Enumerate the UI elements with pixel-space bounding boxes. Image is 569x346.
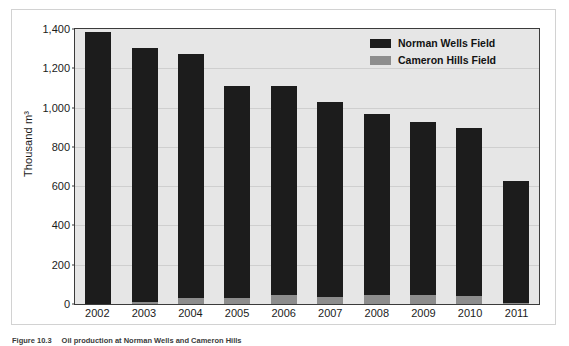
legend-item-0: Norman Wells Field xyxy=(370,37,496,49)
bar-segment-cameron-hills xyxy=(224,298,250,304)
bar-group-2007 xyxy=(317,29,343,304)
bar-segment-norman-wells xyxy=(224,86,250,298)
y-tick-label: 1,400 xyxy=(42,23,70,35)
bar-segment-cameron-hills xyxy=(503,303,529,304)
x-tick-label-2003: 2003 xyxy=(131,307,157,319)
bar-group-2003 xyxy=(132,29,158,304)
bar-segment-norman-wells xyxy=(317,102,343,297)
bar-segment-norman-wells xyxy=(271,86,297,295)
legend-label: Cameron Hills Field xyxy=(398,54,496,66)
y-tick-label: 1,200 xyxy=(42,62,70,74)
bar-segment-cameron-hills xyxy=(364,295,390,304)
y-tick-label: 400 xyxy=(52,219,70,231)
x-tick-label-2006: 2006 xyxy=(271,307,297,319)
bar-group-2005 xyxy=(224,29,250,304)
bar-segment-norman-wells xyxy=(410,122,436,295)
figure-card: Thousand m³ 02004006008001,0001,2001,400… xyxy=(11,9,556,325)
legend-item-1: Cameron Hills Field xyxy=(370,54,496,66)
y-tick-label: 600 xyxy=(52,180,70,192)
y-tick-label: 800 xyxy=(52,141,70,153)
legend-label: Norman Wells Field xyxy=(398,37,495,49)
x-tick-label-2011: 2011 xyxy=(504,307,530,319)
bar-segment-cameron-hills xyxy=(271,295,297,304)
bar-group-2004 xyxy=(178,29,204,304)
bar-segment-cameron-hills xyxy=(178,298,204,304)
legend-swatch xyxy=(370,39,391,48)
x-tick-label-2010: 2010 xyxy=(457,307,483,319)
bar-segment-cameron-hills xyxy=(317,297,343,304)
bar-segment-norman-wells xyxy=(178,54,204,299)
y-tick-label: 200 xyxy=(52,259,70,271)
bar-segment-cameron-hills xyxy=(132,302,158,304)
bar-segment-norman-wells xyxy=(85,32,111,304)
legend-swatch xyxy=(370,56,391,65)
figure-caption-number: Figure 10.3 xyxy=(12,336,52,345)
y-tick-label: 0 xyxy=(64,298,70,310)
x-tick-label-2002: 2002 xyxy=(84,307,110,319)
bar-segment-norman-wells xyxy=(456,128,482,296)
bar-segment-norman-wells xyxy=(503,181,529,303)
figure-caption: Figure 10.3Oil production at Norman Well… xyxy=(12,336,432,345)
y-tick-label: 1,000 xyxy=(42,102,70,114)
x-axis-ticks: 2002200320042005200620072008200920102011 xyxy=(74,307,540,319)
y-axis-title: Thousand m³ xyxy=(22,84,34,204)
figure-caption-text: Oil production at Norman Wells and Camer… xyxy=(62,336,242,345)
bar-segment-norman-wells xyxy=(364,114,390,295)
chart-legend: Norman Wells FieldCameron Hills Field xyxy=(364,33,502,75)
x-tick-label-2005: 2005 xyxy=(224,307,250,319)
x-tick-label-2004: 2004 xyxy=(177,307,203,319)
x-tick-label-2009: 2009 xyxy=(410,307,436,319)
x-tick-label-2008: 2008 xyxy=(364,307,390,319)
bar-segment-cameron-hills xyxy=(410,295,436,304)
bar-group-2002 xyxy=(85,29,111,304)
x-tick-label-2007: 2007 xyxy=(317,307,343,319)
bar-segment-norman-wells xyxy=(132,48,158,302)
bar-group-2006 xyxy=(271,29,297,304)
bar-group-2011 xyxy=(503,29,529,304)
bar-segment-cameron-hills xyxy=(456,296,482,304)
